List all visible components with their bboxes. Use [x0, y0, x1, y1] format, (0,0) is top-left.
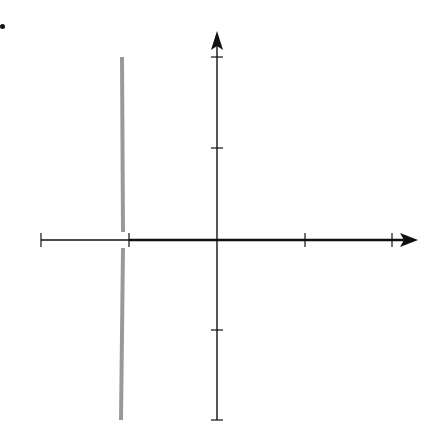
- vector-field-plot: [0, 0, 438, 436]
- vertical-band: [121, 57, 123, 420]
- x-axis: [41, 233, 418, 247]
- y-axis: [211, 31, 223, 420]
